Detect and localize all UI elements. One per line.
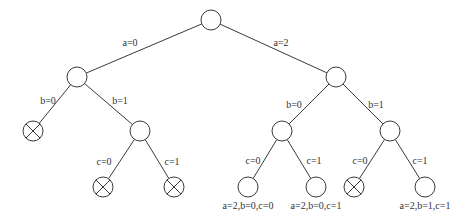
tree-node bbox=[380, 121, 400, 141]
edge-root-a2 bbox=[220, 24, 327, 73]
tree-node bbox=[201, 10, 221, 30]
edge-label: c=0 bbox=[245, 155, 260, 166]
tree-node bbox=[67, 67, 87, 87]
edge-label: c=1 bbox=[412, 155, 427, 166]
leaf-label: a=2,b=0,c=0 bbox=[223, 200, 274, 211]
tree-node bbox=[306, 177, 326, 197]
pruned-node-icon bbox=[344, 177, 364, 197]
edge-root-a0 bbox=[86, 24, 202, 73]
edge-label: c=0 bbox=[352, 155, 367, 166]
leaf-label: a=2,b=1,c=1 bbox=[400, 200, 451, 211]
tree-node bbox=[130, 121, 150, 141]
pruned-node-icon bbox=[23, 121, 43, 141]
edge-label: c=0 bbox=[96, 156, 111, 167]
pruned-node-icon bbox=[164, 177, 184, 197]
edge-label: a=0 bbox=[122, 37, 137, 48]
pruned-node-icon bbox=[93, 177, 113, 197]
decision-tree-diagram: a=0a=2b=0b=1b=0b=1c=0c=1c=0c=1c=0c=1 a=2… bbox=[0, 0, 471, 221]
leaf-label: a=2,b=0,c=1 bbox=[291, 200, 342, 211]
edge-label: b=1 bbox=[368, 99, 384, 110]
edge-label: c=1 bbox=[306, 155, 321, 166]
tree-node bbox=[415, 177, 435, 197]
edge-label: a=2 bbox=[273, 37, 288, 48]
tree-node bbox=[326, 67, 346, 87]
edge-label: b=0 bbox=[40, 95, 56, 106]
edge-labels: a=0a=2b=0b=1b=0b=1c=0c=1c=0c=1c=0c=1 bbox=[40, 37, 427, 167]
leaf-labels: a=2,b=0,c=0a=2,b=0,c=1a=2,b=1,c=1 bbox=[223, 200, 451, 211]
edge-label: b=0 bbox=[286, 99, 302, 110]
edge-label: b=1 bbox=[112, 95, 128, 106]
edge-a0b1-a0b1c0 bbox=[109, 139, 135, 178]
edge-label: c=1 bbox=[164, 156, 179, 167]
tree-node bbox=[238, 177, 258, 197]
tree-node bbox=[272, 121, 292, 141]
